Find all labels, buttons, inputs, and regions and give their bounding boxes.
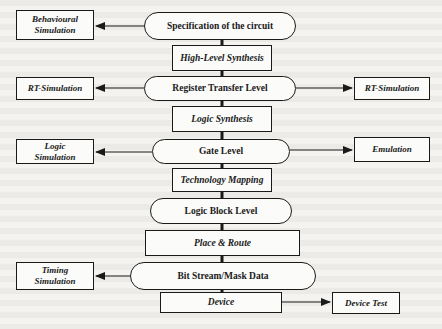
- node-specification: Specification of the circuit: [144, 12, 296, 40]
- node-label-line1: Logic: [45, 141, 66, 152]
- node-rt-simulation-left: RT-Simulation: [16, 77, 94, 100]
- node-label-line2: Simulation: [34, 25, 75, 36]
- node-place-and-route: Place & Route: [145, 230, 300, 256]
- node-label-line2: Simulation: [34, 152, 75, 163]
- node-register-transfer-level: Register Transfer Level: [144, 76, 296, 101]
- node-label: Register Transfer Level: [172, 83, 267, 94]
- node-label: Emulation: [372, 144, 412, 155]
- node-label: RT-Simulation: [28, 83, 83, 94]
- node-label: Technology Mapping: [181, 175, 264, 186]
- node-label: Bit Stream/Mask Data: [177, 271, 268, 282]
- node-label: Device: [208, 297, 234, 308]
- node-logic-block-level: Logic Block Level: [150, 198, 292, 224]
- node-device: Device: [160, 292, 282, 313]
- node-label: Logic Block Level: [185, 206, 258, 217]
- node-label: High-Level Synthesis: [180, 53, 264, 64]
- node-gate-level: Gate Level: [152, 139, 290, 164]
- node-rt-simulation-right: RT-Simulation: [354, 77, 430, 100]
- node-emulation: Emulation: [354, 137, 430, 162]
- node-logic-simulation: Logic Simulation: [16, 139, 94, 164]
- node-label: RT-Simulation: [365, 83, 420, 94]
- node-technology-mapping: Technology Mapping: [172, 168, 272, 192]
- node-behavioural-simulation: Behavioural Simulation: [16, 10, 94, 40]
- node-label: Place & Route: [194, 238, 251, 249]
- node-label: Logic Synthesis: [191, 114, 253, 125]
- node-device-test: Device Test: [332, 292, 400, 314]
- node-label-line2: Simulation: [34, 276, 75, 287]
- node-label: Device Test: [345, 298, 387, 309]
- node-label-line1: Behavioural: [32, 14, 78, 25]
- node-timing-simulation: Timing Simulation: [16, 262, 94, 290]
- node-bit-stream-mask-data: Bit Stream/Mask Data: [130, 262, 316, 290]
- node-label-line1: Timing: [42, 265, 69, 276]
- node-logic-synthesis: Logic Synthesis: [172, 106, 272, 132]
- node-high-level-synthesis: High-Level Synthesis: [172, 45, 272, 71]
- node-label: Gate Level: [199, 146, 243, 157]
- node-label: Specification of the circuit: [167, 21, 273, 32]
